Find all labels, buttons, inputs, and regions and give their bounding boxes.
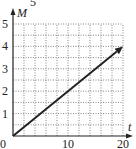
y-tick-label: 2	[2, 84, 8, 98]
x-axis-label: t	[128, 120, 132, 134]
y-tick-label: 5	[2, 17, 8, 31]
y-tick-label: 1	[2, 107, 8, 121]
x-tick-labels: 1020	[62, 137, 129, 149]
x-tick-label: 10	[62, 137, 74, 149]
y-tick-label: 4	[2, 39, 8, 53]
y-tick-labels: 12345	[2, 17, 8, 121]
chart: 5 M t 0 12345 1020	[0, 0, 136, 149]
x-tick-label: 20	[117, 137, 129, 149]
y-axis-label: M	[16, 6, 28, 20]
grid	[13, 24, 123, 136]
origin-label: 0	[0, 137, 6, 149]
y-tick-label: 3	[2, 62, 8, 76]
y-axis-arrow-icon	[11, 8, 16, 15]
top-fragment: 5	[30, 0, 36, 9]
